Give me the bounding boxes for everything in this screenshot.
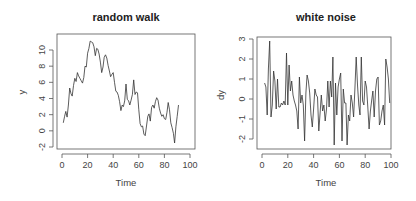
x-tick-label: 80 — [360, 160, 370, 170]
y-tick-label: -1 — [237, 115, 247, 123]
x-axis-label: Time — [316, 177, 337, 188]
y-tick-label: -2 — [37, 143, 47, 151]
y-axis: -20246810 — [37, 45, 53, 151]
x-axis: 020406080100 — [259, 154, 398, 170]
plot-frame — [57, 34, 195, 149]
y-tick-label: 10 — [37, 45, 47, 55]
y-axis-label: dy — [215, 90, 226, 100]
random-walk-panel: random walk 020406080100 -20246810 Time … — [16, 11, 198, 188]
y-tick-label: 0 — [237, 96, 247, 101]
y-tick-label: 4 — [37, 96, 47, 101]
x-tick-label: 40 — [309, 160, 319, 170]
y-axis: -2-10123 — [237, 36, 253, 143]
x-axis: 020406080100 — [59, 154, 197, 170]
y-tick-label: 0 — [37, 128, 47, 133]
y-tick-label: 8 — [37, 64, 47, 69]
y-tick-label: 1 — [237, 76, 247, 81]
chart-canvas: random walk 020406080100 -20246810 Time … — [0, 0, 416, 201]
x-tick-label: 20 — [83, 160, 93, 170]
x-tick-label: 0 — [259, 160, 264, 170]
y-tick-label: 3 — [237, 36, 247, 41]
chart-title: random walk — [92, 11, 160, 23]
x-tick-label: 100 — [383, 160, 398, 170]
y-tick-label: 2 — [37, 112, 47, 117]
y-tick-label: 6 — [37, 80, 47, 85]
y-tick-label: 2 — [237, 56, 247, 61]
x-tick-label: 60 — [134, 160, 144, 170]
chart-title: white noise — [295, 11, 356, 23]
y-axis-label: y — [16, 89, 27, 94]
x-tick-label: 80 — [159, 160, 169, 170]
x-tick-label: 20 — [283, 160, 293, 170]
x-tick-label: 60 — [334, 160, 344, 170]
data-line — [63, 41, 178, 143]
white-noise-panel: white noise 020406080100 -2-10123 Time d… — [215, 11, 399, 188]
x-tick-label: 40 — [108, 160, 118, 170]
data-line — [265, 41, 390, 145]
y-tick-label: -2 — [237, 135, 247, 143]
x-tick-label: 0 — [59, 160, 64, 170]
x-tick-label: 100 — [182, 160, 197, 170]
x-axis-label: Time — [116, 177, 137, 188]
